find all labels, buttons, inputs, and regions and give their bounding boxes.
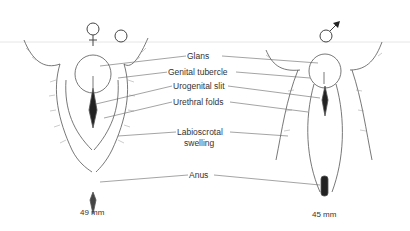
male-symbol-icon (115, 30, 127, 42)
female-symbol-icon (87, 23, 99, 46)
label-anus: Anus (188, 170, 209, 180)
label-urogenital-slit: Urogenital slit (172, 81, 226, 91)
diagram-external-genitalia-development: Glans Genital tubercle Urogenital slit U… (0, 0, 410, 231)
male-anatomy (266, 42, 382, 196)
male-size-label: 45 mm (312, 210, 336, 219)
label-swelling: swelling (183, 138, 215, 148)
label-urethral-folds: Urethral folds (172, 97, 225, 107)
label-glans: Glans (186, 51, 210, 61)
anatomy-illustration (0, 0, 410, 231)
female-size-label: 49 mm (80, 208, 104, 217)
label-genital-tubercle: Genital tubercle (167, 67, 229, 77)
label-labioscrotal: Labioscrotal (176, 127, 224, 137)
female-anatomy (24, 38, 148, 214)
